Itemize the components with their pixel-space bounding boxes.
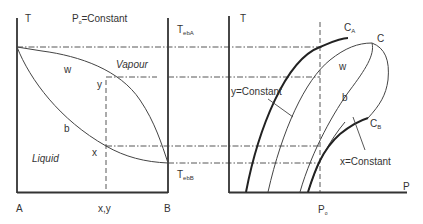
t-eb-b-label: TebB [177, 169, 194, 181]
component-b-label: B [164, 203, 171, 214]
p-zero-label: Po [318, 204, 328, 216]
y-constant-label: y=Constant [231, 86, 282, 97]
critical-point-mixture-label: C [377, 33, 384, 44]
component-a-label: A [16, 203, 23, 214]
t-eb-a-label: TebA [177, 24, 194, 36]
right-t-axis-label: T [240, 13, 246, 24]
left-t-axis-label: T [25, 13, 31, 24]
tp-diagram: T P CA C CB w b y=Constant x=Constant Po [229, 13, 410, 216]
vapour-pressure-curve-b [308, 118, 368, 192]
pressure-constant-title: Po=Constant [72, 13, 128, 25]
critical-point-a-label: CA [344, 22, 355, 34]
liquid-region-label: Liquid [32, 153, 59, 164]
right-bubble-curve-label: b [342, 92, 348, 103]
vapour-pressure-curve-a [246, 38, 348, 192]
right-dew-curve-label: w [338, 61, 347, 72]
composition-axis-label: x,y [98, 203, 111, 214]
critical-point-b-label: CB [370, 118, 381, 130]
bubble-curve-label: b [64, 123, 70, 134]
vapour-region-label: Vapour [116, 59, 149, 70]
p-axis-label: P [403, 181, 410, 192]
bubble-curve-mixture [300, 43, 373, 192]
phase-diagram: T Po=Constant Vapour Liquid w b y x A x,… [0, 0, 423, 224]
vapour-point-label: y [97, 79, 102, 90]
liquid-point-label: x [92, 147, 97, 158]
x-constant-label: x=Constant [340, 156, 391, 167]
dew-curve-label: w [63, 64, 72, 75]
txy-diagram: T Po=Constant Vapour Liquid w b y x A x,… [16, 13, 323, 214]
